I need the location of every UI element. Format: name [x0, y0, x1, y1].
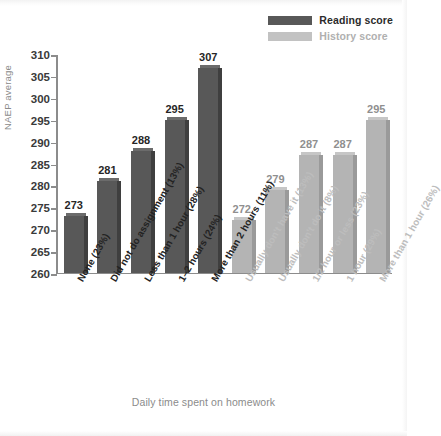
bar-side [386, 120, 390, 272]
y-tick-label: 310 [31, 49, 50, 61]
bar-value-label: 273 [65, 199, 83, 211]
y-axis-title: NAEP average [2, 116, 13, 130]
bar-top [66, 213, 86, 216]
bar-slot: 273 [64, 55, 84, 273]
bar-value-label: 287 [300, 138, 318, 150]
bar-top [167, 117, 187, 120]
y-tick-label: 285 [31, 159, 50, 171]
y-tick-label: 280 [31, 180, 50, 192]
bar-value-label: 307 [199, 51, 217, 63]
y-tick-mark [51, 274, 57, 276]
bar-top [335, 152, 355, 155]
bar-side [218, 68, 222, 272]
bar-value-label: 295 [367, 103, 385, 115]
y-tick-label: 300 [31, 93, 50, 105]
y-tick-label: 265 [31, 246, 50, 258]
y-tick-label: 290 [31, 137, 50, 149]
bar-face [64, 216, 84, 273]
bar-top [301, 152, 321, 155]
bar-top [200, 65, 220, 68]
x-axis-category-labels: None (23%)Did not do assignment (13%)Les… [57, 278, 393, 383]
bar-value-label: 295 [165, 103, 183, 115]
y-tick-label: 305 [31, 71, 50, 83]
y-tick-label: 295 [31, 115, 50, 127]
y-tick-label: 260 [31, 268, 50, 280]
bar-top [99, 178, 119, 181]
bar-reading[interactable]: 273 [64, 216, 84, 273]
bar-value-label: 288 [132, 134, 150, 146]
x-axis-title: Daily time spent on homework [0, 396, 407, 408]
y-tick-label: 275 [31, 202, 50, 214]
bar-value-label: 281 [98, 164, 116, 176]
y-tick-label: 270 [31, 224, 50, 236]
bar-reading[interactable]: 281 [97, 181, 117, 272]
bar-face [97, 181, 117, 272]
bar-top [368, 117, 388, 120]
bar-top [133, 148, 153, 151]
bar-value-label: 287 [333, 138, 351, 150]
